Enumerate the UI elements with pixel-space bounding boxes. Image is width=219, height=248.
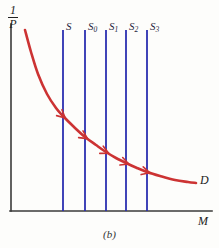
supply-line-label-s0: S0 (88, 20, 97, 32)
supply-lines-group (63, 30, 147, 211)
y-axis-label: 1 P (8, 4, 18, 30)
supply-label-base: S (129, 20, 135, 32)
figure-container: 1 P M D SS0S1S2S3 (b) (0, 0, 219, 248)
supply-label-base: S (66, 20, 72, 32)
supply-label-base: S (88, 20, 94, 32)
supply-label-subscript: 0 (94, 25, 98, 34)
y-axis-label-numerator: 1 (8, 4, 18, 18)
supply-label-subscript: 3 (156, 25, 160, 34)
supply-label-subscript: 1 (115, 25, 119, 34)
supply-line-label-s2: S2 (129, 20, 138, 32)
x-axis-label: M (198, 214, 208, 229)
demand-curve-group (25, 30, 196, 183)
supply-label-subscript: 2 (135, 25, 139, 34)
plot-canvas (0, 0, 219, 248)
supply-label-base: S (150, 20, 156, 32)
figure-caption: (b) (0, 228, 219, 240)
demand-curve-label: D (200, 173, 209, 188)
axes-group (10, 24, 212, 211)
supply-line-label-s3: S3 (150, 20, 159, 32)
supply-label-base: S (109, 20, 115, 32)
y-axis-label-denominator: P (8, 18, 18, 31)
supply-line-label-s1: S1 (109, 20, 118, 32)
demand-curve-path (25, 30, 196, 183)
supply-line-label-s: S (66, 20, 72, 32)
